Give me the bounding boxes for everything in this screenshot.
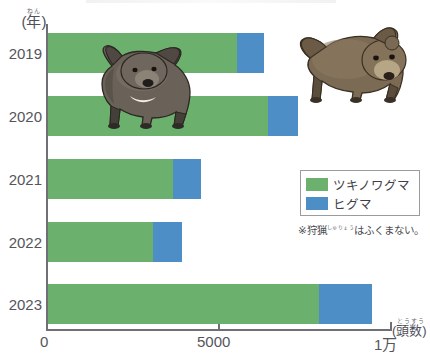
legend-label-asian-black-bear: ツキノワグマ bbox=[333, 175, 410, 194]
x-axis-tick-5000 bbox=[218, 323, 220, 331]
footnote-marker: ※ bbox=[298, 224, 307, 236]
x-tick-label-5000: 5000 bbox=[197, 333, 230, 350]
y-axis-label-2019: 2019 bbox=[2, 45, 42, 62]
legend-label-brown-bear: ヒグマ bbox=[333, 194, 372, 213]
black-bear-illustration bbox=[78, 38, 218, 130]
bar-segment-asian-black-bear bbox=[48, 284, 319, 324]
x-axis-unit-text: (頭数) bbox=[392, 324, 430, 338]
bar-chart: ねん (年) 0 5000 1万 とうすう (頭数) 2019202020212… bbox=[0, 0, 430, 363]
y-axis-label-2022: 2022 bbox=[2, 234, 42, 251]
footnote-kanji: 狩猟 bbox=[307, 224, 327, 236]
y-axis-label-2020: 2020 bbox=[2, 108, 42, 125]
x-tick-label-0: 0 bbox=[40, 333, 48, 350]
legend-item-asian-black-bear: ツキノワグマ bbox=[306, 175, 414, 194]
bar-segment-brown-bear bbox=[237, 33, 264, 73]
y-axis-unit-label: ねん (年) bbox=[12, 8, 56, 30]
bar-segment-asian-black-bear bbox=[48, 222, 153, 262]
y-axis-label-2021: 2021 bbox=[2, 171, 42, 188]
cropped-title-artifact bbox=[86, 0, 336, 3]
y-axis-unit-text: (年) bbox=[12, 14, 56, 30]
bar-segment-brown-bear bbox=[173, 159, 200, 199]
bar-row bbox=[48, 159, 201, 199]
bar-segment-asian-black-bear bbox=[48, 159, 173, 199]
y-axis-label-2023: 2023 bbox=[2, 296, 42, 313]
legend: ツキノワグマ ヒグマ bbox=[300, 170, 420, 216]
blue-swatch-icon bbox=[306, 197, 328, 210]
footnote-suffix: はふくまない。 bbox=[354, 224, 424, 236]
bar-segment-brown-bear bbox=[319, 284, 372, 324]
bar-row bbox=[48, 222, 182, 262]
bar-row bbox=[48, 284, 372, 324]
bar-segment-brown-bear bbox=[153, 222, 182, 262]
x-axis-unit-label: とうすう (頭数) bbox=[392, 318, 430, 338]
legend-footnote: ※狩猟しゅりょうはふくまない。 bbox=[298, 222, 430, 237]
green-swatch-icon bbox=[306, 178, 328, 191]
brown-bear-illustration bbox=[288, 14, 420, 106]
legend-item-brown-bear: ヒグマ bbox=[306, 194, 414, 213]
footnote-ruby: しゅりょう bbox=[327, 224, 355, 230]
